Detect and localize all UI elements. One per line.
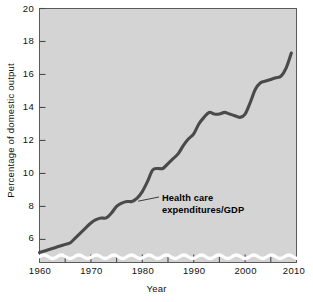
plot-area (39, 8, 297, 263)
x-tick-label: 1980 (132, 266, 154, 276)
x-tick-label: 2000 (234, 266, 256, 276)
series-annotation: Health care expenditures/GDP (162, 193, 302, 216)
annotation-line-1: Health care (162, 193, 302, 205)
health-care-expenditure-chart: 20 18 16 14 12 10 8 6 1960 1970 1980 199… (0, 0, 313, 302)
x-tick-label: 1970 (80, 266, 102, 276)
x-tick-label: 1960 (29, 266, 51, 276)
annotation-line-2: expenditures/GDP (162, 205, 302, 217)
x-tick-label: 1990 (183, 266, 205, 276)
x-axis-title: Year (0, 283, 313, 294)
y-tick-label: 20 (12, 4, 34, 14)
x-axis-tick-labels: 1960 1970 1980 1990 2000 2010 (0, 266, 313, 280)
x-tick-label: 2010 (283, 266, 305, 276)
y-axis-title: Percentage of domestic output (5, 16, 16, 246)
